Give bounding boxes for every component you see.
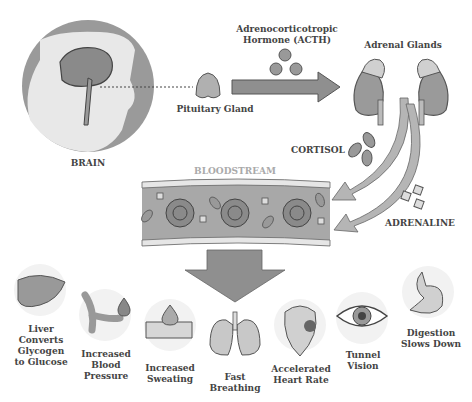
adrenaline-label: ADRENALINE: [380, 218, 460, 229]
stomach-icon: [402, 266, 454, 318]
effect-heart-rate-label: Accelerated Heart Rate: [268, 364, 334, 386]
effect-digestion-label: Digestion Slows Down: [398, 328, 464, 350]
acth-molecules-icon: [270, 49, 302, 75]
effect-sweating-label: Increased Sweating: [142, 363, 198, 385]
arrow-down-icon: [185, 250, 285, 302]
lungs-icon: [210, 312, 260, 355]
arrow-right-icon: [232, 72, 340, 102]
liver-icon: [14, 264, 66, 316]
cortisol-label: CORTISOL: [290, 145, 346, 156]
acth-label-line1: Adrenocorticotropic: [232, 24, 342, 35]
brain-label: BRAIN: [68, 158, 108, 169]
heart-icon: [274, 299, 326, 356]
bloodstream-label: BLOODSTREAM: [190, 166, 280, 177]
bloodstream-vessel: [139, 179, 330, 246]
eye-icon: [336, 292, 388, 344]
pituitary-gland-label: Pituitary Gland: [170, 104, 260, 115]
pituitary-gland-icon: [196, 73, 220, 98]
effect-liver-label: Liver Converts Glycogen to Glucose: [12, 324, 70, 368]
blood-vessel-icon: [79, 289, 131, 341]
effect-breathing-label: Fast Breathing: [205, 372, 265, 394]
sweat-drop-icon: [144, 299, 196, 351]
acth-label-line2: Hormone (ACTH): [232, 35, 342, 46]
effect-blood-pressure-label: Increased Blood Pressure: [78, 349, 134, 382]
cortisol-molecules-icon: [346, 131, 377, 166]
adrenal-glands-label: Adrenal Glands: [358, 40, 448, 51]
effect-tunnel-vision-label: Tunnel Vision: [340, 350, 386, 372]
brain-illustration: [22, 20, 193, 152]
